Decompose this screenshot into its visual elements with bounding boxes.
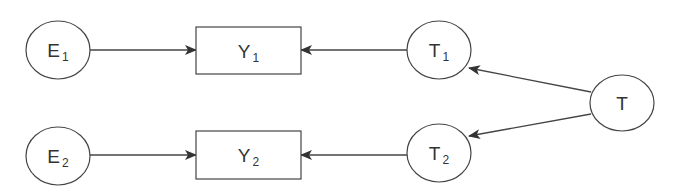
node-y2: Y2: [196, 131, 301, 179]
nodes-layer: E1Y1T1TE2Y2T2: [26, 21, 654, 185]
arrow-t-to-t2: [469, 114, 591, 136]
node-e2: E2: [26, 127, 90, 185]
node-e1: E1: [26, 21, 90, 79]
arrow-t-to-t1: [469, 68, 591, 92]
node-t: T: [590, 75, 654, 131]
path-diagram: E1Y1T1TE2Y2T2: [0, 0, 674, 194]
edges-layer: [90, 50, 591, 155]
node-y1: Y1: [196, 27, 301, 74]
label-t: T: [616, 93, 628, 114]
node-t2: T2: [407, 124, 471, 182]
node-t1: T1: [407, 21, 471, 79]
